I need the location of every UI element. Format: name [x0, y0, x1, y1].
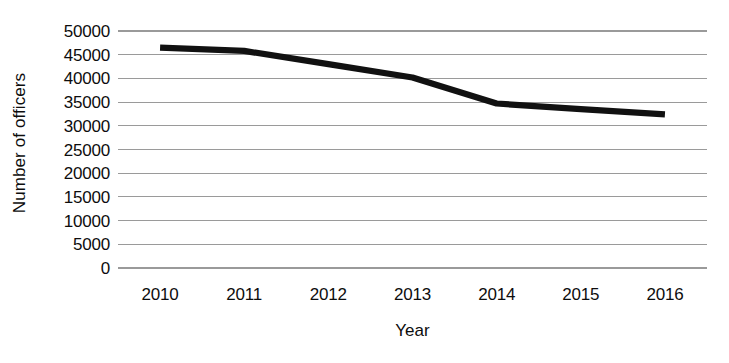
- x-axis-title: Year: [118, 322, 707, 339]
- data-series-layer: [118, 31, 707, 268]
- y-axis-tick-label: 30000: [34, 117, 110, 134]
- y-axis-title-text: Number of officers: [10, 72, 30, 212]
- x-axis-tick-label: 2010: [142, 286, 179, 303]
- y-axis-tick-label: 40000: [34, 70, 110, 87]
- y-axis-tick-label: 50000: [34, 23, 110, 40]
- y-axis-tick-label: 10000: [34, 212, 110, 229]
- x-axis-tick-label: 2013: [394, 286, 431, 303]
- y-axis-tick-label: 25000: [34, 141, 110, 158]
- y-axis-tick-label: 0: [34, 260, 110, 277]
- y-axis-tick-label: 45000: [34, 46, 110, 63]
- line-chart-figure: Number of officers 050001000015000200002…: [0, 0, 729, 363]
- plot-area: [118, 31, 707, 268]
- x-axis-tick-label: 2011: [226, 286, 262, 303]
- y-axis-tick-label: 5000: [34, 236, 110, 253]
- y-axis-tick-label: 20000: [34, 165, 110, 182]
- y-axis-tick-label: 35000: [34, 94, 110, 111]
- x-axis-tick-label: 2015: [562, 286, 599, 303]
- x-axis-tick-label: 2014: [478, 286, 515, 303]
- series-line-number-of-officers: [160, 48, 665, 115]
- x-axis-tick-label-group: 2010201120122013201420152016: [118, 286, 707, 312]
- y-axis-tick-label: 15000: [34, 188, 110, 205]
- x-axis-tick-label: 2016: [646, 286, 683, 303]
- x-axis-tick-label: 2012: [310, 286, 347, 303]
- y-axis-tick-label-group: 0500010000150002000025000300003500040000…: [34, 0, 110, 363]
